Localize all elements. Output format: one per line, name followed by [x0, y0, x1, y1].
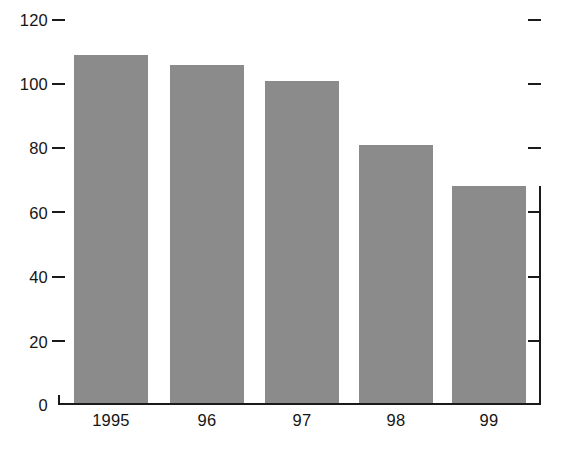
bar-chart: 120 100 80 60 40 20 0 1995 96 97 98 99: [0, 0, 564, 466]
y-tick-label-20: 20: [4, 334, 48, 351]
y-tick-label-0: 0: [4, 397, 48, 414]
bar-98: [359, 145, 433, 404]
y-tick-label-60: 60: [4, 205, 48, 222]
y-tick-label-40: 40: [4, 269, 48, 286]
x-tick-label-96: 96: [170, 412, 244, 429]
x-tick-label-97: 97: [265, 412, 339, 429]
x-tick-label-1995: 1995: [74, 412, 148, 429]
y-axis-tick-labels: 120 100 80 60 40 20 0: [0, 0, 48, 466]
plot-area: [58, 14, 540, 404]
bar-99: [452, 186, 526, 404]
y-tick-label-120: 120: [4, 12, 48, 29]
bar-1995: [74, 55, 148, 404]
x-axis-right-corner-stub: [539, 395, 541, 404]
bar-96: [170, 65, 244, 404]
x-tick-label-99: 99: [452, 412, 526, 429]
bar-97: [265, 81, 339, 404]
y-tick-label-80: 80: [4, 140, 48, 157]
x-axis-baseline: [58, 403, 541, 405]
x-axis-left-corner-stub: [58, 395, 60, 404]
x-tick-label-98: 98: [359, 412, 433, 429]
y-tick-label-100: 100: [4, 76, 48, 93]
